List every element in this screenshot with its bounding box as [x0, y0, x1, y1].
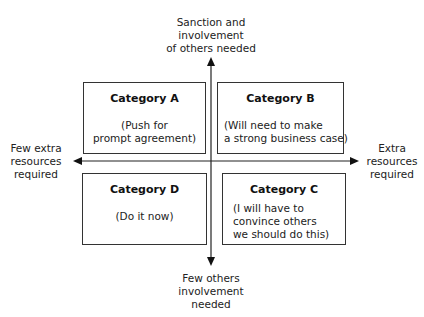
quadrant-b-desc: (Will need to make a strong business cas…: [224, 119, 348, 145]
quadrant-a-title: Category A: [84, 92, 205, 105]
quadrant-b-title: Category B: [218, 92, 343, 105]
quadrant-a: Category A (Push for prompt agreement): [83, 82, 206, 154]
quadrant-d-desc: (Do it now): [83, 210, 206, 223]
quadrant-c-desc: (I will have to convince others we shoul…: [233, 202, 329, 241]
left-axis-label: Few extra resources required: [6, 142, 66, 181]
quadrant-d: Category D (Do it now): [82, 173, 207, 245]
quadrant-a-desc: (Push for prompt agreement): [84, 119, 205, 145]
arrow-left-icon: [73, 157, 82, 165]
arrow-right-icon: [350, 157, 359, 165]
quadrant-c: Category C (I will have to convince othe…: [222, 173, 346, 245]
right-axis-label: Extra resources required: [362, 142, 422, 181]
quadrant-b: Category B (Will need to make a strong b…: [217, 82, 344, 154]
arrow-down-icon: [207, 257, 215, 266]
top-axis-label: Sanction and involvement of others neede…: [160, 16, 262, 55]
bottom-axis-label: Few others involvement needed: [170, 272, 252, 311]
quadrant-c-title: Category C: [223, 183, 345, 196]
quadrant-d-title: Category D: [83, 183, 206, 196]
arrow-up-icon: [207, 57, 215, 66]
